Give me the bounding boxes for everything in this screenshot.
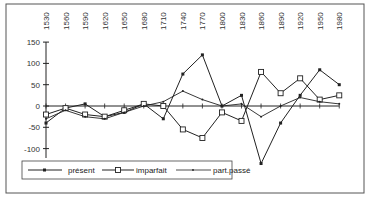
legend-label-part-passe: part.passé xyxy=(213,166,251,175)
x-tick-label: 1650 xyxy=(120,12,129,30)
x-tick-label: 1860 xyxy=(257,12,266,30)
x-tick-label: 1710 xyxy=(159,12,168,30)
x-tick-label: 1590 xyxy=(81,12,90,30)
legend-label-present: présent xyxy=(68,166,95,175)
series-line-1 xyxy=(46,72,339,138)
x-tick-label: 1560 xyxy=(62,12,71,30)
y-tick-label: -100 xyxy=(24,145,41,154)
x-tick-label: 1680 xyxy=(140,12,149,30)
x-tick-label: 1830 xyxy=(238,12,247,30)
x-tick-label: 1800 xyxy=(218,12,227,30)
chart-frame: 1530156015901620165016801710174017701800… xyxy=(0,0,369,199)
x-tick-label: 1620 xyxy=(101,12,110,30)
y-tick-label: 150 xyxy=(27,38,41,47)
line-chart: 1530156015901620165016801710174017701800… xyxy=(0,0,369,199)
y-axis: 150100500-50-100 xyxy=(24,38,49,158)
legend: présent imparfait part.passé xyxy=(22,161,251,179)
y-tick-label: 0 xyxy=(36,102,41,111)
y-tick-label: 50 xyxy=(31,81,40,90)
dot-marker-icon xyxy=(192,169,194,171)
y-tick-label: -50 xyxy=(28,123,40,132)
series-line-0 xyxy=(46,55,339,164)
x-tick-label: 1980 xyxy=(335,12,344,30)
x-axis-labels: 1530156015901620165016801710174017701800… xyxy=(42,12,344,30)
x-tick-label: 1890 xyxy=(277,12,286,30)
legend-label-imparfait: imparfait xyxy=(136,166,167,175)
x-tick-label: 1770 xyxy=(198,12,207,30)
x-tick-label: 1740 xyxy=(179,12,188,30)
x-axis-zero-line xyxy=(46,104,339,109)
series-lines xyxy=(44,53,342,165)
x-tick-label: 1530 xyxy=(42,12,51,30)
y-tick-label: 100 xyxy=(27,59,41,68)
open-square-marker-icon xyxy=(116,168,121,173)
x-tick-label: 1950 xyxy=(316,12,325,30)
x-tick-label: 1920 xyxy=(296,12,305,30)
filled-square-marker-icon xyxy=(43,169,46,172)
